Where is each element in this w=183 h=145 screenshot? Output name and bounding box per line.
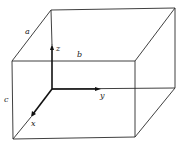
label-x: x	[31, 119, 36, 128]
bottom-right-connecting-edge	[135, 88, 175, 137]
edge-c	[12, 61, 13, 139]
label-c: c	[4, 95, 9, 104]
back-top-edge	[51, 8, 175, 10]
edge-a	[12, 10, 51, 61]
label-z: z	[55, 44, 61, 53]
z-axis-arrowhead	[50, 44, 54, 50]
bottom-left-connecting-edge	[13, 117, 31, 139]
label-b: b	[77, 50, 82, 59]
label-y: y	[99, 91, 105, 100]
top-right-connecting-edge	[135, 8, 175, 61]
label-a: a	[25, 27, 30, 36]
box-diagram: a b c z y x	[0, 0, 183, 145]
front-bottom-edge	[13, 137, 135, 139]
x-axis	[33, 89, 52, 114]
back-left-edge-upper	[51, 10, 52, 45]
